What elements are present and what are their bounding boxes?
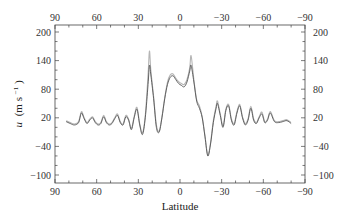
y-tick-label: 200 — [313, 27, 328, 38]
y-tick-label: 80 — [41, 84, 51, 95]
x-tick-label: 60 — [92, 186, 102, 197]
x-tick-label: 0 — [178, 186, 183, 197]
y-axis-title: u (m s −1 ) — [8, 80, 25, 127]
y-tick-label: 20 — [41, 112, 51, 123]
y-tick-label: 200 — [36, 27, 51, 38]
dark-profile-line — [66, 65, 291, 156]
x-tick-label: 60 — [92, 12, 102, 23]
x-tick-label: −90 — [297, 186, 313, 197]
top-x-axis-labels: 9060300−30−60−90 — [50, 12, 313, 23]
x-tick-label: 30 — [133, 12, 143, 23]
y-axis-unit: (m s — [12, 97, 25, 116]
plot-frame — [55, 25, 305, 183]
x-tick-label: 90 — [50, 12, 60, 23]
x-tick-label: 30 — [133, 186, 143, 197]
x-tick-label: −60 — [256, 186, 272, 197]
zonal-wind-chart: 9060300−30−60−90 9060300−30−60−90 200140… — [0, 0, 350, 216]
y-axis-var: u — [12, 122, 24, 128]
y-tick-label: −100 — [30, 170, 51, 181]
y-tick-label: −40 — [313, 141, 329, 152]
x-tick-label: 90 — [50, 186, 60, 197]
right-y-axis-labels: 2001408020−40−100 — [313, 27, 334, 181]
data-series — [66, 51, 291, 156]
light-profile-line — [66, 51, 291, 155]
bottom-x-axis-labels: 9060300−30−60−90 — [50, 186, 313, 197]
y-axis-exp: −1 — [12, 86, 20, 94]
y-tick-label: 80 — [313, 84, 323, 95]
x-tick-label: 0 — [178, 12, 183, 23]
x-tick-label: −30 — [214, 186, 230, 197]
axis-ticks — [55, 25, 305, 183]
x-axis-title: Latitude — [162, 200, 199, 212]
y-tick-label: 140 — [36, 55, 51, 66]
x-tick-label: −90 — [297, 12, 313, 23]
y-tick-label: −40 — [35, 141, 51, 152]
y-tick-label: −100 — [313, 170, 334, 181]
x-tick-label: −60 — [256, 12, 272, 23]
y-axis-close: ) — [12, 80, 25, 84]
x-tick-label: −30 — [214, 12, 230, 23]
y-tick-label: 140 — [313, 55, 328, 66]
y-tick-label: 20 — [313, 112, 323, 123]
left-y-axis-labels: 2001408020−40−100 — [30, 27, 51, 181]
